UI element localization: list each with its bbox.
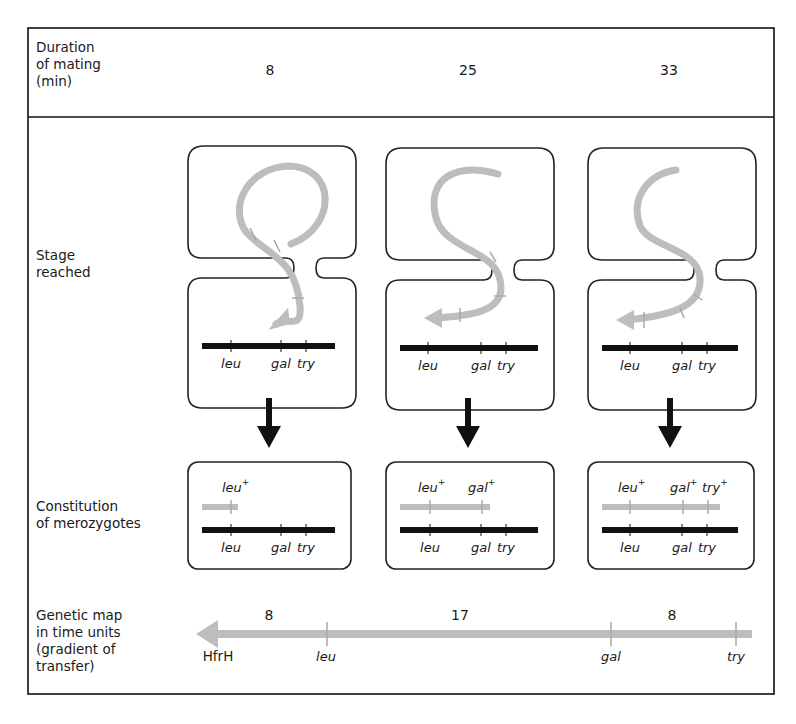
conjugation-diagram: Duration of mating (min) Stage reached C… — [0, 0, 796, 724]
svg-text:leu: leu — [620, 358, 640, 373]
svg-text:leu: leu — [221, 356, 241, 371]
svg-text:leu: leu — [420, 540, 440, 555]
svg-text:try: try — [698, 540, 716, 555]
merozygote-col3: leu+ gal+ try+ leu gal try — [588, 462, 754, 569]
donor-dna-strand — [239, 166, 325, 324]
svg-text:gal: gal — [672, 358, 692, 373]
dna-arrowhead — [268, 308, 290, 330]
down-arrow-col3 — [658, 398, 682, 448]
map-label-gal: gal — [601, 649, 621, 664]
svg-text:gal: gal — [471, 358, 491, 373]
svg-text:gal: gal — [471, 540, 491, 555]
transferred-gene-gal: gal+ — [468, 477, 495, 495]
down-arrow-col2 — [456, 398, 480, 448]
stage-reached-label: Stage reached — [36, 247, 91, 280]
dna-arrowhead — [616, 310, 634, 330]
donor-dna-strand — [434, 170, 501, 318]
figure-frame — [28, 28, 774, 694]
transferred-gene-leu: leu+ — [222, 477, 249, 495]
svg-text:try: try — [698, 358, 716, 373]
transferred-gene-try: try+ — [702, 477, 728, 495]
interval-leu-gal: 17 — [451, 607, 469, 623]
svg-text:try: try — [497, 358, 515, 373]
map-label-leu: leu — [316, 649, 336, 664]
down-arrow-col1 — [257, 398, 281, 448]
constitution-label: Constitution of merozygotes — [36, 498, 141, 531]
donor-cell — [386, 148, 554, 410]
duration-value-col3: 33 — [660, 62, 678, 78]
svg-text:gal: gal — [271, 356, 291, 371]
transferred-gene-leu: leu+ — [418, 477, 445, 495]
dna-arrowhead — [424, 308, 442, 328]
map-arrowhead — [196, 620, 218, 648]
duration-value-col1: 8 — [266, 62, 275, 78]
mating-pair-col1: leu gal try — [188, 146, 356, 408]
genetic-map: 8 17 8 HfrH leu gal try — [196, 607, 752, 664]
svg-text:gal: gal — [672, 540, 692, 555]
interval-origin-leu: 8 — [265, 607, 274, 623]
interval-gal-try: 8 — [668, 607, 677, 623]
svg-text:try: try — [297, 356, 315, 371]
transferred-gene-leu: leu+ — [618, 477, 645, 495]
mating-pair-col2: leu gal try — [386, 148, 554, 410]
transferred-gene-gal: gal+ — [670, 477, 697, 495]
svg-text:try: try — [297, 540, 315, 555]
map-label-try: try — [727, 649, 745, 664]
svg-text:leu: leu — [418, 358, 438, 373]
mating-pair-col3: leu gal try — [588, 148, 756, 410]
duration-value-col2: 25 — [459, 62, 477, 78]
merozygote-col1: leu+ leu gal try — [188, 462, 351, 569]
merozygote-col2: leu+ gal+ leu gal try — [386, 462, 554, 569]
svg-text:leu: leu — [620, 540, 640, 555]
donor-dna-strand — [626, 170, 700, 320]
origin-label: HfrH — [203, 648, 234, 664]
svg-text:gal: gal — [271, 540, 291, 555]
genetic-map-label: Genetic map in time units (gradient of t… — [36, 607, 127, 674]
duration-label: Duration of mating (min) — [36, 39, 105, 89]
svg-text:try: try — [497, 540, 515, 555]
svg-text:leu: leu — [221, 540, 241, 555]
